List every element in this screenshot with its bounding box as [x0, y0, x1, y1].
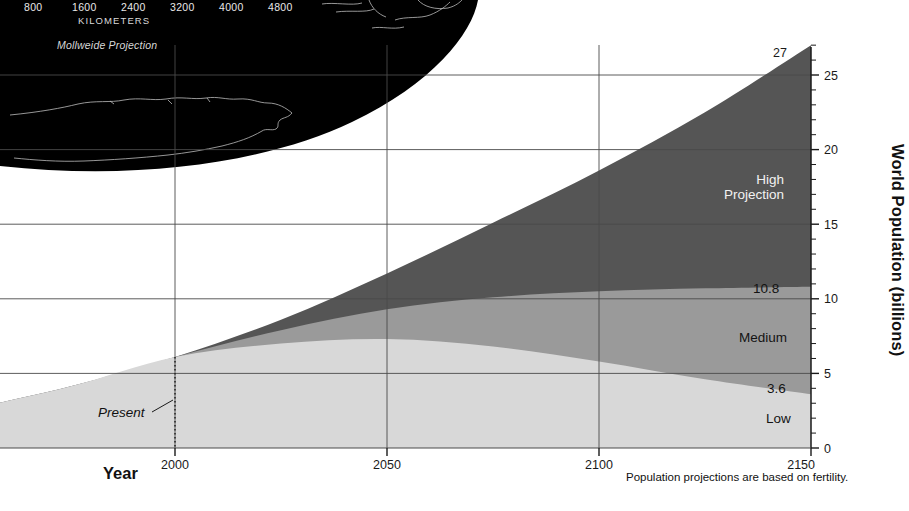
high-endpoint-label: 27 — [773, 46, 787, 60]
y-axis-tick-label: 5 — [824, 367, 831, 381]
low-endpoint-label: 3.6 — [767, 381, 786, 396]
y-axis-tick-label: 25 — [824, 69, 838, 83]
y-axis-tick-label: 15 — [824, 218, 838, 232]
y-axis-tick-label: 0 — [824, 442, 831, 456]
present-marker-label: Present — [98, 405, 145, 420]
x-axis-title: Year — [103, 464, 138, 483]
chart-plot-area: 0510152025 2000205021002150 27 — [0, 0, 909, 511]
x-axis-tick-label: 2050 — [373, 458, 401, 472]
x-axis-tick-label: 2100 — [585, 458, 613, 472]
series-label-high: HighProjection — [724, 172, 784, 202]
y-axis-tick-label: 20 — [824, 143, 838, 157]
y-axis-ticks — [811, 45, 819, 448]
series-label-line: High — [724, 172, 784, 187]
area-series-group — [0, 45, 811, 448]
x-axis-tick-labels: 2000205021002150 — [161, 458, 815, 472]
series-label-low: Low — [766, 411, 791, 426]
medium-endpoint-label: 10.8 — [753, 281, 779, 296]
y-axis-tick-labels: 0510152025 — [824, 69, 838, 456]
y-axis-tick-label: 10 — [824, 292, 838, 306]
series-label-medium: Medium — [739, 330, 787, 345]
x-axis-tick-label: 2150 — [787, 458, 815, 472]
x-axis-tick-label: 2000 — [161, 458, 189, 472]
y-axis-title: World Population (billions) — [888, 144, 907, 356]
x-axis-ticks — [175, 448, 811, 456]
population-projection-chart: 0510152025 2000205021002150 27 World Pop… — [0, 0, 909, 511]
chart-footnote: Population projections are based on fert… — [626, 471, 848, 483]
series-label-line: Projection — [724, 187, 784, 202]
